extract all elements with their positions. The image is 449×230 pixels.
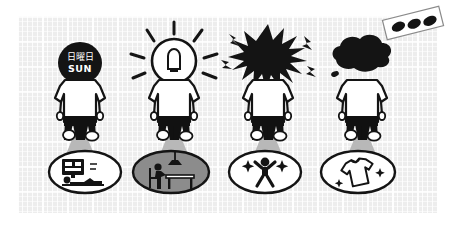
shoe-right xyxy=(86,131,99,140)
oval-desk-work xyxy=(130,148,212,196)
shoe-left xyxy=(157,130,169,140)
hand-left xyxy=(151,112,157,120)
shoe-right xyxy=(180,131,193,140)
desk-leg-left xyxy=(168,178,170,189)
oval-stretching xyxy=(226,148,304,196)
tv-screen-left xyxy=(65,162,72,166)
bulb-base xyxy=(170,68,178,72)
tape-strip-three-dots-icon xyxy=(378,2,448,44)
tv-screen-right xyxy=(75,162,81,166)
person-head xyxy=(261,158,270,167)
hand-right xyxy=(379,112,385,120)
cloud-drop xyxy=(330,70,339,78)
oval-clean-shirt-art xyxy=(318,148,398,196)
shoe-left xyxy=(251,130,263,140)
person-head xyxy=(64,177,71,184)
oval-clean-shirt xyxy=(318,148,398,196)
tv-stand xyxy=(71,175,75,178)
hand-right xyxy=(97,112,103,120)
desk-leg-right xyxy=(190,178,192,189)
hand-left xyxy=(57,112,63,120)
tv-screen-bar xyxy=(65,168,81,171)
shoe-left xyxy=(345,130,357,140)
bulb-filament xyxy=(168,49,180,69)
oval-watching-tv-art xyxy=(46,148,124,196)
hips xyxy=(346,116,378,126)
calendar-head-icon xyxy=(58,42,102,84)
hand-right xyxy=(191,112,197,120)
hand-left xyxy=(245,112,251,120)
tape-strip xyxy=(378,2,448,44)
shoe-right xyxy=(368,131,381,140)
hand-right xyxy=(285,112,291,120)
illustration-stage: 日曜日 SUN xyxy=(0,0,449,230)
oval-stretching-art xyxy=(226,148,304,196)
hips xyxy=(252,116,284,126)
hand-left xyxy=(339,112,345,120)
shoe-right xyxy=(274,131,287,140)
oval-watching-tv xyxy=(46,148,124,196)
oval-desk-work-art xyxy=(130,148,212,196)
person-head xyxy=(154,163,161,170)
hips xyxy=(158,116,190,126)
hips xyxy=(64,116,96,126)
shoe-left xyxy=(63,130,75,140)
desk-top xyxy=(166,175,194,178)
tv-icon xyxy=(62,159,84,175)
oval-outline xyxy=(133,151,209,193)
oval-outline xyxy=(49,151,121,193)
